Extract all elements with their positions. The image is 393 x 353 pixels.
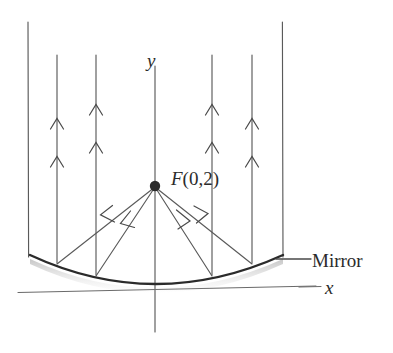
mirror-curve bbox=[30, 255, 283, 284]
reflected-ray-left-outer bbox=[57, 187, 155, 264]
x-label-leader-line bbox=[299, 287, 321, 288]
focus-coordinates: (0,2) bbox=[183, 168, 219, 189]
reflected-ray-left-outer-arrowhead bbox=[101, 206, 115, 223]
reflected-ray-left-inner-arrowhead bbox=[121, 211, 135, 228]
y-axis-label: y bbox=[147, 50, 155, 72]
focus-point-label: F(0,2) bbox=[171, 168, 219, 190]
reflected-ray-right-inner bbox=[155, 187, 212, 276]
parabolic-mirror-figure: y x F(0,2) Mirror bbox=[0, 0, 393, 353]
incoming-ray-1 bbox=[28, 22, 29, 257]
reflected-ray-right-outer-arrowhead bbox=[194, 206, 208, 223]
focus-letter: F bbox=[171, 168, 183, 189]
reflected-ray-left-inner bbox=[96, 187, 155, 276]
x-axis-label: x bbox=[325, 277, 333, 299]
mirror-label: Mirror bbox=[312, 250, 363, 272]
focus-point-dot bbox=[150, 181, 160, 191]
incoming-ray-7 bbox=[282, 22, 283, 257]
reflected-ray-right-outer bbox=[155, 187, 252, 264]
